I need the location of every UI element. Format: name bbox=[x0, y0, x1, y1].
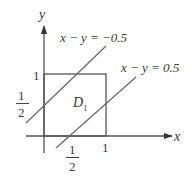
line-x-minus-y-pos-half bbox=[56, 77, 136, 148]
x-tick-half: 1 2 bbox=[66, 142, 79, 174]
diagram-canvas: y x 1 1 1 2 1 2 D 1 x − y = −0.5 x − y =… bbox=[0, 0, 192, 177]
line-label-pos-half: x − y = 0.5 bbox=[120, 60, 180, 75]
y-half-denominator: 2 bbox=[18, 105, 25, 120]
x-half-numerator: 1 bbox=[69, 142, 76, 157]
line-label-neg-half: x − y = −0.5 bbox=[59, 30, 128, 45]
y-tick-half: 1 2 bbox=[16, 88, 29, 120]
region-label-main: D bbox=[72, 95, 83, 110]
y-half-numerator: 1 bbox=[18, 88, 25, 103]
y-axis-label: y bbox=[37, 7, 46, 22]
y-tick-one: 1 bbox=[33, 68, 40, 83]
x-axis-label: x bbox=[173, 129, 181, 144]
line-x-minus-y-neg-half bbox=[26, 46, 106, 123]
x-tick-one: 1 bbox=[102, 140, 109, 155]
region-label-subscript: 1 bbox=[83, 103, 88, 113]
x-half-denominator: 2 bbox=[69, 159, 76, 174]
region-label: D 1 bbox=[72, 95, 88, 113]
